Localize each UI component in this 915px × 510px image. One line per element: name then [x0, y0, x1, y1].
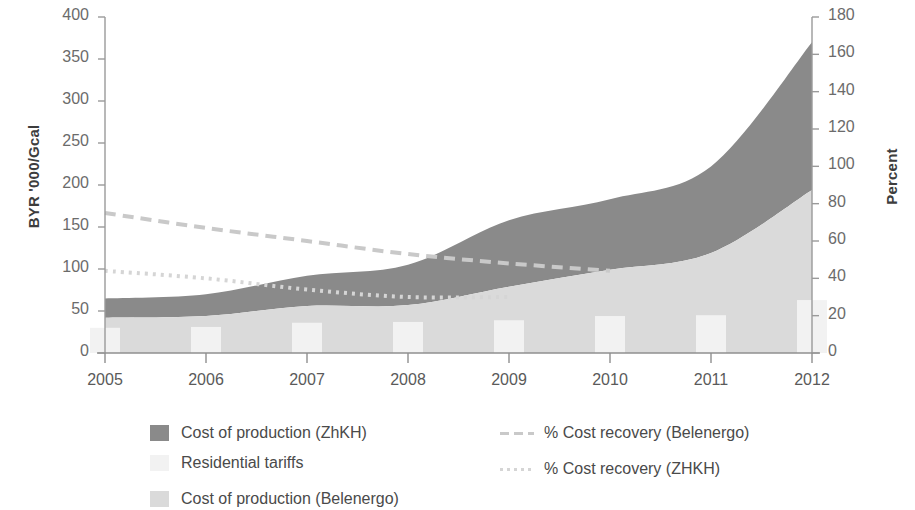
x-tick-label: 2008 [373, 371, 443, 389]
right-tick-label: 180 [828, 6, 874, 24]
legend-dashed-line-icon [500, 432, 534, 435]
chart-legend: Cost of production (ZhKH) Residential ta… [150, 418, 890, 510]
legend-item-cost-production-zhkh: Cost of production (ZhKH) [150, 418, 490, 448]
legend-swatch-light-icon [150, 491, 169, 507]
x-tick-label: 2009 [474, 371, 544, 389]
bar-residential-tariff [595, 316, 625, 353]
x-tick-label: 2011 [676, 371, 746, 389]
left-tick-label: 0 [43, 342, 89, 360]
left-tick-label: 400 [43, 6, 89, 24]
chart-container: BYR '000/Gcal Percent 050100150200250300… [0, 0, 915, 510]
right-tick-label: 40 [828, 267, 874, 285]
right-tick-label: 80 [828, 193, 874, 211]
left-tick-label: 100 [43, 258, 89, 276]
left-tick-label: 250 [43, 132, 89, 150]
x-tick-label: 2006 [171, 371, 241, 389]
legend-swatch-pale-icon [150, 455, 169, 471]
legend-label: Residential tariffs [181, 454, 303, 472]
bar-residential-tariff [191, 327, 221, 353]
right-tick-label: 100 [828, 155, 874, 173]
x-tick-label: 2012 [777, 371, 847, 389]
bar-residential-tariff [696, 315, 726, 353]
right-tick-label: 60 [828, 230, 874, 248]
legend-item-cost-recovery-zhkh: % Cost recovery (ZHKH) [500, 454, 890, 484]
legend-item-cost-production-belenergo: Cost of production (Belenergo) [150, 484, 490, 510]
legend-column-left: Cost of production (ZhKH) Residential ta… [150, 418, 490, 510]
left-tick-label: 200 [43, 174, 89, 192]
plot-area [0, 0, 915, 412]
legend-dotted-line-icon [500, 468, 534, 471]
right-tick-label: 20 [828, 305, 874, 323]
legend-item-cost-recovery-belenergo: % Cost recovery (Belenergo) [500, 418, 890, 448]
right-tick-label: 140 [828, 81, 874, 99]
legend-label: % Cost recovery (Belenergo) [544, 424, 749, 442]
right-tick-label: 120 [828, 118, 874, 136]
bar-residential-tariff [393, 322, 423, 353]
legend-item-residential-tariffs: Residential tariffs [150, 448, 490, 478]
x-tick-label: 2007 [272, 371, 342, 389]
left-tick-label: 50 [43, 300, 89, 318]
x-tick-label: 2010 [575, 371, 645, 389]
bar-residential-tariff [292, 323, 322, 353]
left-tick-label: 300 [43, 90, 89, 108]
legend-label: Cost of production (ZhKH) [181, 424, 367, 442]
legend-label: Cost of production (Belenergo) [181, 490, 399, 508]
left-tick-label: 350 [43, 48, 89, 66]
right-tick-label: 160 [828, 43, 874, 61]
x-tick-label: 2005 [70, 371, 140, 389]
legend-swatch-dark-icon [150, 425, 169, 441]
left-tick-label: 150 [43, 216, 89, 234]
bar-residential-tariff [494, 320, 524, 353]
legend-label: % Cost recovery (ZHKH) [544, 460, 720, 478]
legend-column-right: % Cost recovery (Belenergo) % Cost recov… [500, 418, 890, 484]
right-tick-label: 0 [828, 342, 874, 360]
